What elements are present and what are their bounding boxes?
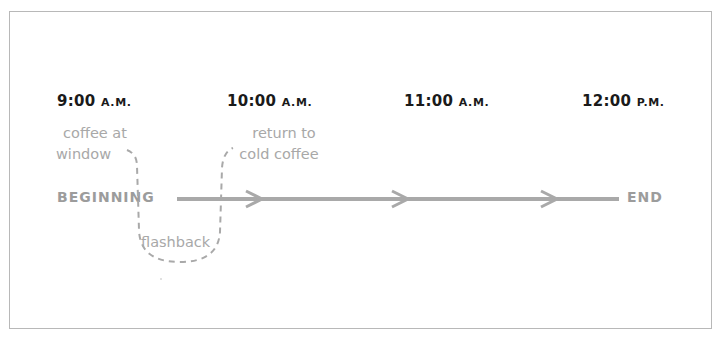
- stray-dot: [160, 278, 162, 280]
- flashback-loop: [127, 148, 233, 262]
- timeline-graphic: [0, 0, 721, 337]
